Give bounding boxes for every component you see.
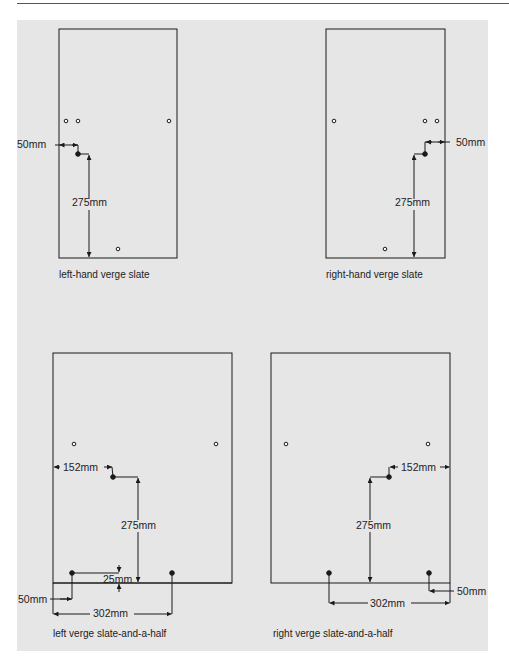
slate-outline [59, 29, 177, 258]
dimension-label-50mm: 50mm [17, 138, 46, 150]
dimension-label-302mm: 302mm [93, 607, 128, 619]
nail-hole-open [64, 119, 68, 123]
caption-left-verge-slate-and-a-half: left verge slate-and-a-half [53, 628, 167, 639]
verge-slate-diagram: 50mm 275mm left-hand verge slate 50mm 27… [0, 0, 509, 665]
caption-left-hand-verge-slate: left-hand verge slate [59, 269, 150, 280]
nail-hole-open [435, 119, 439, 123]
left-verge-slate-and-a-half [50, 353, 232, 614]
dimension-label-152mm: 152mm [401, 461, 436, 473]
dimension-label-50mm: 50mm [457, 585, 486, 597]
dimension-label-275mm: 275mm [395, 196, 430, 208]
dimension-label-25mm: 25mm [103, 573, 132, 585]
slate-outline [326, 29, 445, 258]
dimension-label-50mm: 50mm [18, 593, 47, 605]
dimension-label-275mm: 275mm [356, 519, 391, 531]
nail-hole-open [426, 442, 430, 446]
nail-hole-open [214, 442, 218, 446]
nail-hole-open [284, 442, 288, 446]
nail-hole-open [332, 119, 336, 123]
left-hand-verge-slate [55, 29, 177, 258]
nail-hole-open [423, 119, 427, 123]
dimension-label-302mm: 302mm [370, 597, 405, 609]
caption-right-hand-verge-slate: right-hand verge slate [326, 269, 423, 280]
caption-right-verge-slate-and-a-half: right verge slate-and-a-half [273, 628, 393, 639]
dimension-label-275mm: 275mm [72, 196, 107, 208]
right-verge-slate-and-a-half [271, 353, 454, 603]
nail-hole-open [72, 442, 76, 446]
nail-hole-open [167, 119, 171, 123]
right-hand-verge-slate [326, 29, 450, 258]
dimension-label-275mm: 275mm [121, 519, 156, 531]
nail-hole-open [76, 119, 80, 123]
nail-hole-open [383, 247, 387, 251]
dimension-label-152mm: 152mm [63, 461, 98, 473]
dimension-label-50mm: 50mm [456, 136, 485, 148]
nail-hole-open [116, 247, 120, 251]
